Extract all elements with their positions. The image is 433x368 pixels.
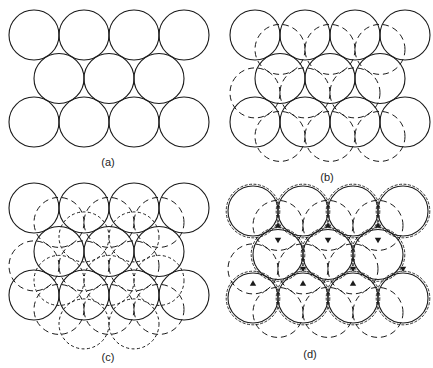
panel-d bbox=[226, 184, 430, 337]
sphere-layer-a bbox=[59, 97, 109, 147]
sphere-layer-a bbox=[34, 54, 84, 104]
sphere-layer-a bbox=[159, 97, 209, 147]
interstitial-site-marker bbox=[300, 280, 306, 285]
sphere-layer-a bbox=[134, 54, 184, 104]
close-packing-figure: (a) (b) (c) (d) bbox=[0, 0, 433, 368]
panel-label-d: (d) bbox=[303, 348, 316, 360]
sphere-layer-a bbox=[109, 10, 159, 60]
sphere-layer-a bbox=[159, 10, 209, 60]
interstitial-site-marker bbox=[250, 280, 256, 285]
interstitial-site-marker bbox=[350, 280, 356, 285]
interstitial-site-marker bbox=[325, 238, 331, 243]
panel-c bbox=[9, 183, 209, 349]
sphere-layer-a bbox=[9, 97, 59, 147]
panel-label-c: (c) bbox=[102, 351, 115, 363]
sphere-layer-a bbox=[59, 10, 109, 60]
panel-label-a: (a) bbox=[101, 156, 114, 168]
interstitial-site-marker bbox=[275, 238, 281, 243]
panel-a bbox=[9, 10, 209, 147]
panel-b bbox=[230, 10, 430, 161]
sphere-layer-a bbox=[84, 54, 134, 104]
sphere-layer-a bbox=[109, 97, 159, 147]
sphere-layer-a bbox=[9, 10, 59, 60]
panel-label-b: (b) bbox=[320, 171, 333, 183]
interstitial-site-marker bbox=[375, 238, 381, 243]
